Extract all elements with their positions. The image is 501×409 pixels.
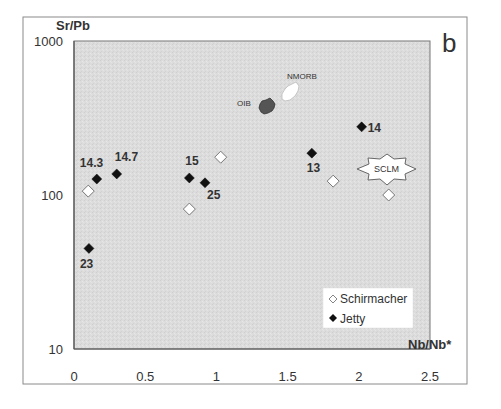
panel-label: b — [442, 28, 456, 58]
y-tick-label: 100 — [41, 188, 63, 203]
x-tick-label: 0.5 — [136, 369, 154, 384]
point-label: 25 — [207, 188, 221, 202]
legend-label-jetty: Jetty — [340, 312, 365, 326]
oib-label: OIB — [237, 99, 251, 108]
legend: Schirmacher Jetty — [323, 288, 413, 328]
x-tick-label: 2 — [355, 369, 362, 384]
sclm-label: SCLM — [374, 164, 399, 174]
point-label: 14 — [368, 121, 382, 135]
scatter-chart: Sr/Pb Nb/Nb* b 101001000 00.511.522.5 OI… — [0, 0, 501, 409]
y-tick-label: 10 — [49, 342, 63, 357]
nmorb-label: NMORB — [287, 72, 317, 81]
point-label: 13 — [307, 161, 321, 175]
legend-label-schirmacher: Schirmacher — [340, 292, 407, 306]
x-tick-label: 2.5 — [421, 369, 439, 384]
point-label: 14.3 — [80, 156, 104, 170]
x-tick-label: 0 — [70, 369, 77, 384]
y-axis-title: Sr/Pb — [56, 18, 90, 33]
point-label: 15 — [185, 154, 199, 168]
x-axis-title: Nb/Nb* — [408, 337, 452, 352]
x-tick-label: 1 — [213, 369, 220, 384]
y-tick-label: 1000 — [34, 34, 63, 49]
point-label: 23 — [80, 257, 94, 271]
x-tick-label: 1.5 — [279, 369, 297, 384]
point-label: 14.7 — [115, 150, 139, 164]
